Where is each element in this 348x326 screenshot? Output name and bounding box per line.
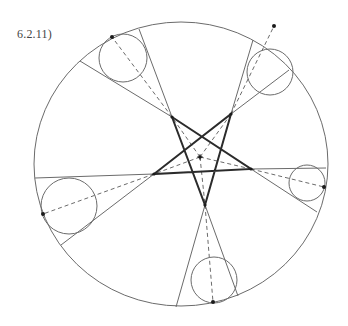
dashed-axis: [231, 26, 274, 114]
dashed-center-line: [172, 117, 200, 157]
sector-ray: [61, 174, 154, 245]
vertex-point: [229, 112, 232, 115]
dashed-lines: [43, 26, 324, 302]
vertex-point: [152, 172, 155, 175]
contact-points: [41, 24, 326, 304]
dashed-axis: [251, 169, 324, 187]
sector-ray: [251, 168, 326, 169]
sector-ray: [231, 40, 253, 114]
contact-point: [272, 24, 276, 28]
inscribed-circle: [41, 178, 97, 234]
sector-ray: [80, 61, 172, 117]
dashed-axis: [205, 205, 213, 302]
contact-point: [110, 35, 114, 39]
contact-point: [322, 185, 326, 189]
inscribed-circle: [99, 34, 147, 82]
pentagram: [154, 114, 251, 205]
sector-ray: [176, 205, 205, 307]
sector-ray: [139, 29, 172, 117]
inscribed-circle: [191, 257, 237, 303]
geometry-diagram: [0, 0, 348, 326]
contact-point: [211, 300, 215, 304]
sector-ray: [251, 169, 317, 212]
sector-ray: [205, 205, 238, 296]
vertex-point: [249, 167, 252, 170]
outer-circle: [34, 22, 328, 306]
sector-ray: [231, 70, 289, 114]
vertex-point: [203, 203, 206, 206]
vertex-point: [170, 115, 173, 118]
dashed-axis: [112, 37, 172, 117]
sector-ray: [35, 174, 154, 178]
outer-circle: [34, 22, 328, 306]
contact-point: [41, 212, 45, 216]
pentagram-outline: [154, 114, 251, 205]
